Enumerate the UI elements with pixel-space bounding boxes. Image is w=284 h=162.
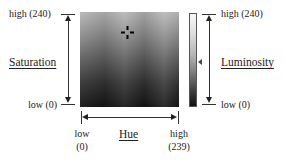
hue-high-label-line1: high	[166, 128, 192, 139]
hue-low-label-line2: (0)	[74, 141, 90, 152]
saturation-title: Saturation	[9, 56, 56, 69]
saturation-low-tick	[61, 104, 75, 105]
saturation-high-label: high (240)	[9, 8, 51, 19]
saturation-low-label: low (0)	[28, 99, 57, 110]
hue-low-label-line1: low	[74, 128, 90, 139]
luminosity-arrow-down-icon	[206, 97, 212, 103]
luminosity-high-label: high (240)	[221, 8, 263, 19]
hue-arrow-right-icon	[171, 114, 177, 120]
hue-axis-line	[88, 117, 171, 118]
crosshair-icon	[121, 26, 134, 39]
saturation-arrow-down-icon	[65, 97, 71, 103]
luminosity-axis-line	[209, 20, 210, 98]
hue-high-label-line2: (239)	[166, 141, 192, 152]
luminosity-low-tick	[202, 104, 216, 105]
hue-high-label: high (239)	[166, 128, 192, 152]
slider-arrow-icon[interactable]	[198, 59, 202, 65]
saturation-axis-line	[68, 20, 69, 98]
luminosity-title: Luminosity	[221, 56, 274, 69]
hue-high-tick	[178, 111, 179, 124]
luminosity-low-label: low (0)	[221, 99, 250, 110]
hue-low-label: low (0)	[74, 128, 90, 152]
luminosity-bar[interactable]	[189, 13, 197, 107]
hue-title: Hue	[119, 128, 138, 141]
